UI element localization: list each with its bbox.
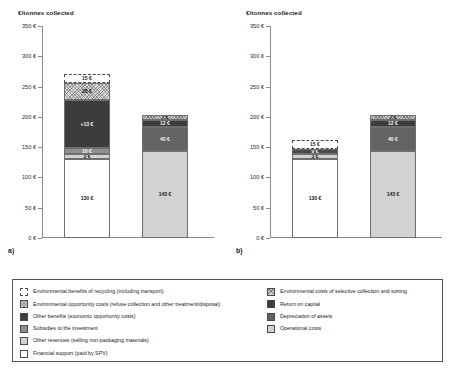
y-tick-a-300	[38, 56, 42, 57]
y-axis-line-a	[42, 26, 43, 238]
y-tick-label-a-200: 200 €	[22, 114, 36, 120]
legend-item-left-4[interactable]: Subsidies to the investment	[20, 323, 265, 335]
legend-swatch-icon	[20, 313, 28, 321]
bar-segment-a-2-3[interactable]: 12 €	[142, 120, 188, 127]
chart-panel-a: €/tonnes collected 350 €300 €250 €200 €1…	[0, 0, 228, 268]
bar-segment-label: 40 €	[388, 137, 398, 142]
y-tick-b-150	[266, 147, 270, 148]
y-axis-line-b	[270, 26, 271, 238]
y-tick-a-0	[38, 238, 42, 239]
y-tick-b-200	[266, 117, 270, 118]
legend-item-left-2[interactable]: Environmental opportunity costs (refuse …	[20, 298, 265, 310]
bar-segment-a-1-5[interactable]: 28 €	[64, 83, 110, 100]
charts-row: €/tonnes collected 350 €300 €250 €200 €1…	[0, 0, 456, 268]
bar-segment-label: 28 €	[82, 89, 92, 94]
bar-a-1[interactable]: 130 €3 €10 €+13 €28 €15 €	[64, 74, 110, 238]
bar-segment-a-2-1[interactable]: 143 €	[142, 151, 188, 238]
bar-segment-a-1-3[interactable]: 10 €	[64, 148, 110, 154]
bar-segment-label: 3 €	[83, 154, 90, 159]
bar-a-2[interactable]: 143 €40 €12 €7 €	[142, 115, 188, 238]
y-tick-a-250	[38, 87, 42, 88]
bar-segment-label: 143 €	[387, 192, 400, 197]
y-tick-label-b-350: 350 €	[250, 23, 264, 29]
y-tick-b-250	[266, 87, 270, 88]
bar-segment-label: +13 €	[81, 122, 94, 127]
bar-segment-b-1-1[interactable]: 130 €	[292, 159, 338, 238]
legend-item-right-3[interactable]: Depreciation of assets	[267, 311, 445, 323]
axis-title-a: €/tonnes collected	[18, 9, 74, 16]
y-tick-label-a-100: 100 €	[22, 174, 36, 180]
bar-segment-b-1-4[interactable]: 15 €	[292, 140, 338, 149]
bar-segment-label: 12 €	[388, 121, 398, 126]
y-tick-label-a-350: 350 €	[22, 23, 36, 29]
legend-column-left: Environmental benefits of recycling (inc…	[20, 286, 265, 360]
legend-swatch-icon	[267, 313, 275, 321]
bar-segment-a-1-1[interactable]: 130 €	[64, 159, 110, 238]
legend-item-right-4[interactable]: Operational costs	[267, 323, 445, 335]
legend-box: Environmental benefits of recycling (inc…	[12, 279, 443, 362]
bar-segment-a-1-4[interactable]: +13 €	[64, 100, 110, 148]
legend-item-left-5[interactable]: Other revenues (selling non-packaging ma…	[20, 335, 265, 347]
legend-item-label: Other revenues (selling non-packaging ma…	[33, 338, 149, 344]
y-tick-label-a-150: 150 €	[22, 144, 36, 150]
bar-segment-b-2-2[interactable]: 40 €	[370, 127, 416, 151]
y-tick-label-b-150: 150 €	[250, 144, 264, 150]
legend-item-label: Environmental benefits of recycling (inc…	[33, 289, 163, 295]
legend-swatch-icon	[20, 325, 28, 333]
y-tick-label-a-50: 50 €	[25, 205, 36, 211]
panel-letter-a: a)	[8, 247, 14, 254]
y-tick-b-100	[266, 177, 270, 178]
legend-item-right-1[interactable]: Environmental costs of selective collect…	[267, 286, 445, 298]
legend-item-left-3[interactable]: Other benefits (economic opportunity cos…	[20, 311, 265, 323]
legend-column-right: Environmental costs of selective collect…	[267, 286, 445, 335]
legend-item-label: Operational costs	[280, 326, 321, 332]
legend-swatch-icon	[20, 300, 28, 308]
y-tick-b-350	[266, 26, 270, 27]
bar-segment-label: 9 €	[311, 149, 318, 154]
legend-item-label: Environmental opportunity costs (refuse …	[33, 302, 220, 308]
y-tick-label-a-300: 300 €	[22, 53, 36, 59]
bar-b-2[interactable]: 143 €40 €12 €7 €	[370, 115, 416, 238]
legend-item-left-1[interactable]: Environmental benefits of recycling (inc…	[20, 286, 265, 298]
chart-panel-b: €/tonnes collected 350 €300 €250 €200 €1…	[228, 0, 456, 268]
y-tick-a-350	[38, 26, 42, 27]
legend-swatch-icon	[20, 337, 28, 345]
y-tick-label-b-250: 250 €	[250, 84, 264, 90]
y-tick-a-50	[38, 208, 42, 209]
bar-segment-b-2-3[interactable]: 12 €	[370, 120, 416, 127]
axis-title-b: €/tonnes collected	[246, 9, 302, 16]
y-tick-label-b-200: 200 €	[250, 114, 264, 120]
y-tick-label-a-0: 0 €	[28, 235, 36, 241]
bar-b-1[interactable]: 130 €3 €9 €15 €	[292, 140, 338, 238]
panel-letter-b: b)	[236, 247, 243, 254]
bar-segment-b-1-2[interactable]: 3 €	[292, 154, 338, 159]
legend-item-left-6[interactable]: Financial support (paid by SPV)	[20, 347, 265, 359]
bar-segment-b-2-1[interactable]: 143 €	[370, 151, 416, 238]
bar-segment-a-2-2[interactable]: 40 €	[142, 127, 188, 151]
y-tick-label-b-300: 300 €	[250, 53, 264, 59]
bar-segment-label: 130 €	[81, 196, 94, 201]
y-tick-a-100	[38, 177, 42, 178]
legend-swatch-icon	[267, 288, 275, 296]
bar-segment-label: 15 €	[310, 142, 320, 147]
legend-item-label: Environmental costs of selective collect…	[280, 289, 407, 295]
bar-segment-a-1-6[interactable]: 15 €	[64, 74, 110, 83]
legend-item-label: Financial support (paid by SPV)	[33, 351, 108, 357]
y-tick-label-b-100: 100 €	[250, 174, 264, 180]
bar-segment-label: 7 €	[161, 115, 168, 120]
bar-segment-label: 12 €	[160, 121, 170, 126]
bar-segment-label: 130 €	[309, 196, 322, 201]
bar-segment-a-2-4[interactable]: 7 €	[142, 115, 188, 120]
legend-item-label: Depreciation of assets	[280, 314, 332, 320]
bar-segment-b-1-3[interactable]: 9 €	[292, 149, 338, 154]
legend-swatch-icon	[20, 288, 28, 296]
plot-area-b: 350 €300 €250 €200 €150 €100 €50 €0 €130…	[270, 26, 442, 238]
y-tick-b-300	[266, 56, 270, 57]
legend-item-right-2[interactable]: Return on capital	[267, 298, 445, 310]
bar-segment-label: 15 €	[82, 76, 92, 81]
bar-segment-a-1-2[interactable]: 3 €	[64, 154, 110, 159]
bar-segment-b-2-4[interactable]: 7 €	[370, 115, 416, 120]
bar-segment-label: 3 €	[311, 154, 318, 159]
y-tick-label-b-0: 0 €	[256, 235, 264, 241]
legend-swatch-icon	[267, 325, 275, 333]
